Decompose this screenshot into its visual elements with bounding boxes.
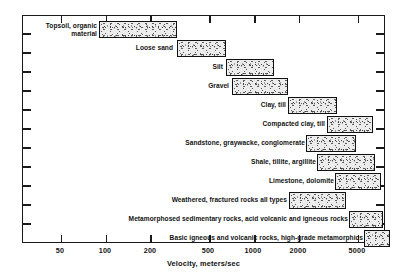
- chart-row: Loose sand: [23, 40, 384, 58]
- x-axis-title: Velocity, meters/sec: [0, 259, 407, 268]
- range-bar: [226, 59, 274, 76]
- seismic-velocity-chart: Topsoil, organic material Loose sand Sil…: [0, 0, 407, 278]
- range-bar: [232, 78, 288, 95]
- range-bar: [288, 97, 337, 114]
- chart-row: Limestone, dolomite: [23, 173, 384, 191]
- row-label: Clay, till: [133, 97, 289, 114]
- row-label-line2: material: [71, 30, 97, 37]
- chart-row: Gravel: [23, 78, 384, 96]
- row-label: Basic igneous and volcanic rocks, high-g…: [39, 230, 366, 247]
- plot-frame: Topsoil, organic material Loose sand Sil…: [22, 15, 385, 243]
- range-bar: [349, 211, 383, 228]
- chart-row: Shale, tillite, argillite: [23, 154, 384, 172]
- row-label: Sandstone, graywacke, conglomerate: [81, 135, 308, 152]
- xtick-label-100: 100: [99, 246, 112, 255]
- row-label: Shale, tillite, argillite: [153, 154, 319, 171]
- chart-row: Sandstone, graywacke, conglomerate: [23, 135, 384, 153]
- xtick-label-1000: 1000: [245, 246, 262, 255]
- row-label: Topsoil, organic material: [23, 21, 100, 39]
- row-label: Compacted clay, till: [133, 116, 328, 133]
- range-bar: [327, 116, 373, 133]
- range-bar: [177, 40, 226, 57]
- xtick-label-50: 50: [56, 246, 64, 255]
- range-bar: [289, 192, 346, 209]
- range-bar: [317, 154, 375, 171]
- chart-row: Compacted clay, till: [23, 116, 384, 134]
- xtick-label-200: 200: [144, 246, 157, 255]
- chart-row: Topsoil, organic material: [23, 21, 384, 39]
- range-bar: [306, 135, 356, 152]
- row-label: Metamorphosed sedimentary rocks, acid vo…: [23, 211, 351, 228]
- xtick-label-500: 500: [202, 246, 215, 255]
- xtick-label-2000: 2000: [290, 246, 307, 255]
- row-label: Weathered, fractured rocks all types: [63, 192, 290, 209]
- row-label: Silt: [83, 59, 226, 76]
- chart-row: Silt: [23, 59, 384, 77]
- row-label: Loose sand: [43, 40, 176, 57]
- chart-row: Metamorphosed sedimentary rocks, acid vo…: [23, 211, 384, 229]
- row-label-line1: Topsoil, organic: [46, 22, 97, 29]
- xtick-label-5000: 5000: [349, 246, 366, 255]
- range-bar: [99, 21, 177, 38]
- range-bar: [335, 173, 381, 190]
- chart-row: Clay, till: [23, 97, 384, 115]
- row-label: Gravel: [83, 78, 232, 95]
- row-label: Limestone, dolomite: [173, 173, 337, 190]
- range-bar: [364, 230, 390, 247]
- chart-row: Weathered, fractured rocks all types: [23, 192, 384, 210]
